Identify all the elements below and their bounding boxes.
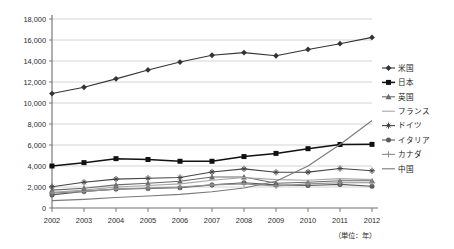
chart-canvas: 02,0004,0006,0008,00010,00012,00014,0001… (0, 0, 454, 249)
y-axis-tick-label: 16,000 (23, 36, 46, 45)
x-axis-tick-label: 2002 (44, 216, 60, 225)
legend-marker-icon (386, 80, 391, 85)
legend-label: イタリア (398, 136, 430, 145)
legend-item-英国[interactable]: 英国 (382, 92, 414, 102)
line-chart: 02,0004,0006,0008,00010,00012,00014,0001… (0, 0, 454, 249)
y-axis-tick-label: 0 (42, 204, 46, 213)
series-米国 (49, 34, 375, 96)
x-axis-unit-label: （単位：年） (334, 231, 376, 240)
data-point (145, 67, 151, 73)
data-point (241, 50, 247, 56)
series-カナダ (49, 180, 375, 196)
data-point (50, 164, 55, 169)
y-axis-tick-label: 14,000 (23, 57, 46, 66)
legend-label: ドイツ (398, 121, 422, 130)
legend-item-フランス[interactable]: フランス (382, 107, 430, 116)
data-point (177, 59, 183, 65)
legend-marker-icon (386, 65, 392, 71)
x-axis-tick-label: 2011 (332, 216, 348, 225)
legend-item-イタリア[interactable]: イタリア (382, 136, 430, 145)
data-point (146, 157, 151, 162)
data-point (370, 142, 375, 147)
data-point (113, 76, 119, 82)
data-point (114, 156, 119, 161)
data-point (306, 146, 311, 151)
legend-label: 中国 (398, 164, 414, 174)
legend-label: 英国 (398, 92, 414, 102)
data-point (274, 151, 279, 156)
data-point (242, 154, 247, 159)
data-point (337, 41, 343, 47)
y-axis-tick-label: 4,000 (28, 162, 47, 171)
data-point (273, 53, 279, 59)
x-axis-tick-label: 2009 (268, 216, 284, 225)
x-axis-tick-label: 2008 (236, 216, 252, 225)
x-axis-tick-label: 2004 (108, 216, 124, 225)
y-axis-tick-label: 2,000 (28, 183, 47, 192)
data-point (81, 84, 87, 90)
y-axis-tick-label: 10,000 (23, 99, 46, 108)
legend-item-カナダ[interactable]: カナダ (382, 149, 422, 159)
legend-label: 日本 (398, 77, 414, 87)
y-axis-tick-label: 8,000 (28, 120, 47, 129)
y-axis-tick-label: 18,000 (23, 15, 46, 24)
x-axis-tick-label: 2005 (140, 216, 156, 225)
x-axis-tick-label: 2007 (204, 216, 220, 225)
legend-item-日本[interactable]: 日本 (382, 77, 414, 87)
series-line (52, 37, 372, 93)
data-point (305, 47, 311, 53)
data-point (178, 159, 183, 164)
data-point (82, 160, 87, 165)
legend-label: カナダ (398, 149, 422, 159)
data-point (49, 91, 55, 97)
legend-label: フランス (398, 107, 430, 116)
y-axis-tick-label: 12,000 (23, 78, 46, 87)
data-point (369, 34, 375, 40)
legend-label: 米国 (398, 63, 414, 73)
legend-item-米国[interactable]: 米国 (382, 63, 414, 73)
y-axis-tick-label: 6,000 (28, 141, 47, 150)
x-axis-tick-label: 2010 (300, 216, 316, 225)
x-axis-tick-label: 2012 (364, 216, 380, 225)
data-point (209, 52, 215, 58)
data-point (210, 159, 215, 164)
x-axis-tick-label: 2003 (76, 216, 92, 225)
legend-item-中国[interactable]: 中国 (382, 164, 414, 174)
series-日本 (50, 142, 375, 169)
legend-item-ドイツ[interactable]: ドイツ (382, 121, 422, 130)
x-axis-tick-label: 2006 (172, 216, 188, 225)
legend-marker-icon (386, 138, 391, 143)
